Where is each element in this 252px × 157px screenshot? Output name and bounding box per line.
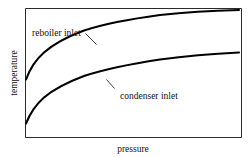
y-axis-label: temperature: [9, 50, 19, 95]
x-axis-label: pressure: [117, 144, 149, 154]
chart-background: [0, 0, 252, 157]
chart-plot-area: reboiler inlet condenser inlet pressure …: [0, 0, 252, 157]
series-label-reboiler-inlet: reboiler inlet: [32, 28, 81, 38]
series-label-condenser-inlet: condenser inlet: [120, 91, 178, 101]
chart-figure: reboiler inlet condenser inlet pressure …: [0, 0, 252, 157]
